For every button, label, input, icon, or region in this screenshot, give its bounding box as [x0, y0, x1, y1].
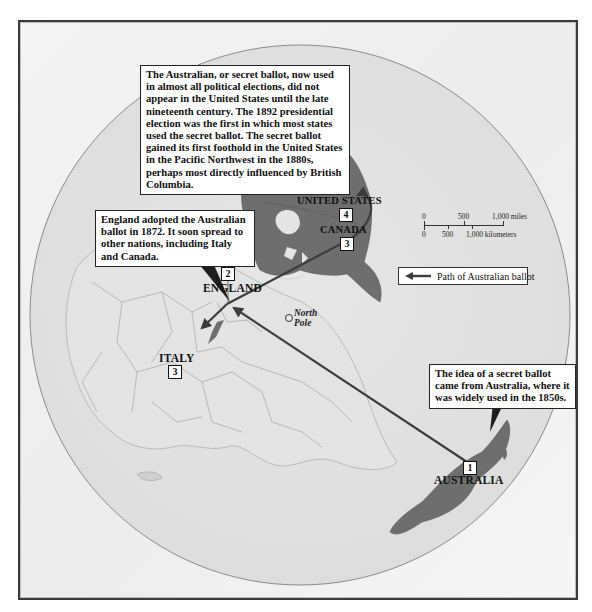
scale-line: [424, 225, 504, 226]
callout-england: England adopted the Australian ballot in…: [95, 210, 255, 267]
callout-australia: The idea of a secret ballot came from Au…: [429, 364, 576, 409]
label-england: ENGLAND: [203, 282, 262, 294]
step-badge-italy: 3: [168, 365, 182, 379]
scale-tick: [448, 225, 449, 229]
step-badge-australia: 1: [463, 461, 477, 475]
scale-miles-500: 500: [458, 212, 469, 221]
callout-united-states-text: The Australian, or secret ballot, now us…: [146, 69, 342, 190]
callout-england-text: England adopted the Australian ballot in…: [101, 214, 246, 262]
step-badge-england: 2: [221, 267, 235, 281]
callout-australia-text: The idea of a secret ballot came from Au…: [435, 368, 570, 403]
scale-km-500: 500: [442, 230, 453, 239]
scale-km-1000: 1,000 kilometers: [466, 230, 516, 239]
scale-tick: [424, 221, 425, 230]
label-italy: ITALY: [159, 352, 195, 364]
scale-tick: [472, 225, 473, 229]
scale-miles-0: 0: [422, 212, 426, 221]
north-pole-label: North Pole: [294, 308, 317, 328]
legend-label: Path of Australian ballot: [437, 271, 535, 282]
step-badge-united-states: 4: [339, 208, 353, 222]
map-frame: The Australian, or secret ballot, now us…: [18, 20, 578, 600]
scale-miles-1000: 1,000 miles: [492, 212, 527, 221]
legend: Path of Australian ballot: [398, 267, 528, 285]
scale-bar: 0 500 1,000 miles 0 500 1,000 kilometers: [424, 212, 574, 252]
arrow-left-icon: [405, 271, 431, 281]
scale-tick: [503, 221, 504, 225]
label-australia: AUSTRALIA: [434, 474, 504, 486]
north-pole-marker: [285, 314, 293, 322]
scale-km-0: 0: [422, 230, 426, 239]
label-canada: CANADA: [320, 224, 367, 235]
label-united-states: UNITED STATES: [297, 195, 382, 206]
step-badge-canada: 3: [340, 237, 354, 251]
scale-tick: [464, 221, 465, 225]
callout-united-states: The Australian, or secret ballot, now us…: [140, 65, 350, 195]
